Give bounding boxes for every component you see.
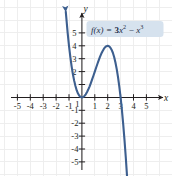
plot-canvas: -5 -4 -3 -2 -1 1 2 3 4 5 5 4 3 2 1 -1 -2… — [0, 0, 172, 176]
x-axis-label: x — [163, 93, 169, 103]
y-tick-label: -1 — [71, 105, 78, 115]
y-tick-label: -5 — [71, 157, 78, 167]
x-tick-label: -2 — [53, 101, 60, 111]
equation-arg: (x) — [94, 25, 104, 35]
x-tick-label: -5 — [14, 101, 21, 111]
equation-equals: = — [107, 25, 112, 35]
equation-label: f(x)=3x2−x3 — [87, 21, 164, 37]
equation-exp-2: 3 — [140, 23, 143, 30]
x-tick-label: -4 — [27, 101, 35, 111]
x-tick-label: 5 — [144, 101, 148, 111]
cubic-function-graph: -5 -4 -3 -2 -1 1 2 3 4 5 5 4 3 2 1 -1 -2… — [0, 0, 172, 176]
y-tick-label: 4 — [72, 41, 77, 51]
x-tick-label: 2 — [106, 101, 110, 111]
y-tick-label: 5 — [72, 28, 76, 38]
x-tick-label: 1 — [93, 101, 97, 111]
y-tick-label: -2 — [71, 118, 78, 128]
equation-label-text: f(x)=3x2−x3 — [91, 23, 143, 34]
y-tick-label: -3 — [71, 131, 78, 141]
equation-minus: − — [129, 25, 134, 35]
equation-exp-1: 2 — [123, 23, 126, 30]
y-axis-label: y — [82, 4, 88, 14]
y-tick-label: -4 — [71, 144, 79, 154]
x-tick-label: -3 — [40, 101, 47, 111]
y-tick-label: 3 — [72, 54, 76, 64]
